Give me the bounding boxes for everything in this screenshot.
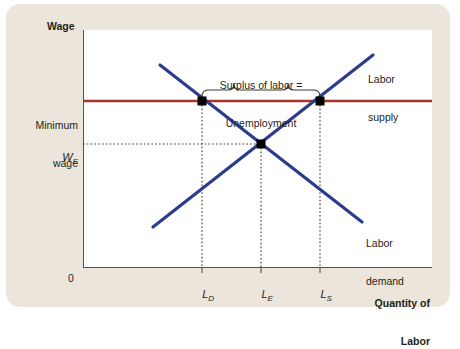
x-tick-le-subscript: E [268,294,273,303]
equilibrium-wage-symbol: W [62,151,72,163]
y-axis-title: Wage [47,20,75,33]
labor-supply-label-line2: supply [368,111,398,124]
labor-supply-label: Labor supply [368,48,398,148]
x-tick-ld-subscript: D [208,294,214,303]
equilibrium-wage-subscript: E [73,157,78,166]
labor-demand-label: Labor demand [366,212,404,312]
labor-supply-label-line1: Labor [368,73,398,86]
x-tick-label-le: LE [241,275,281,318]
equilibrium-wage-label: WE [38,138,78,181]
origin-label: 0 [68,272,74,285]
surplus-annotation-line1: Surplus of labor = [191,79,331,92]
minimum-wage-label-line1: Minimum [18,119,78,132]
x-tick-label-ld: LD [182,275,222,318]
labor-demand-label-line1: Labor [366,237,404,250]
surplus-annotation-line2: Unemployment [191,117,331,130]
labor-demand-label-line2: demand [366,275,404,288]
surplus-annotation: Surplus of labor = Unemployment [191,54,331,154]
x-axis-title-line2: Labor [330,335,430,348]
